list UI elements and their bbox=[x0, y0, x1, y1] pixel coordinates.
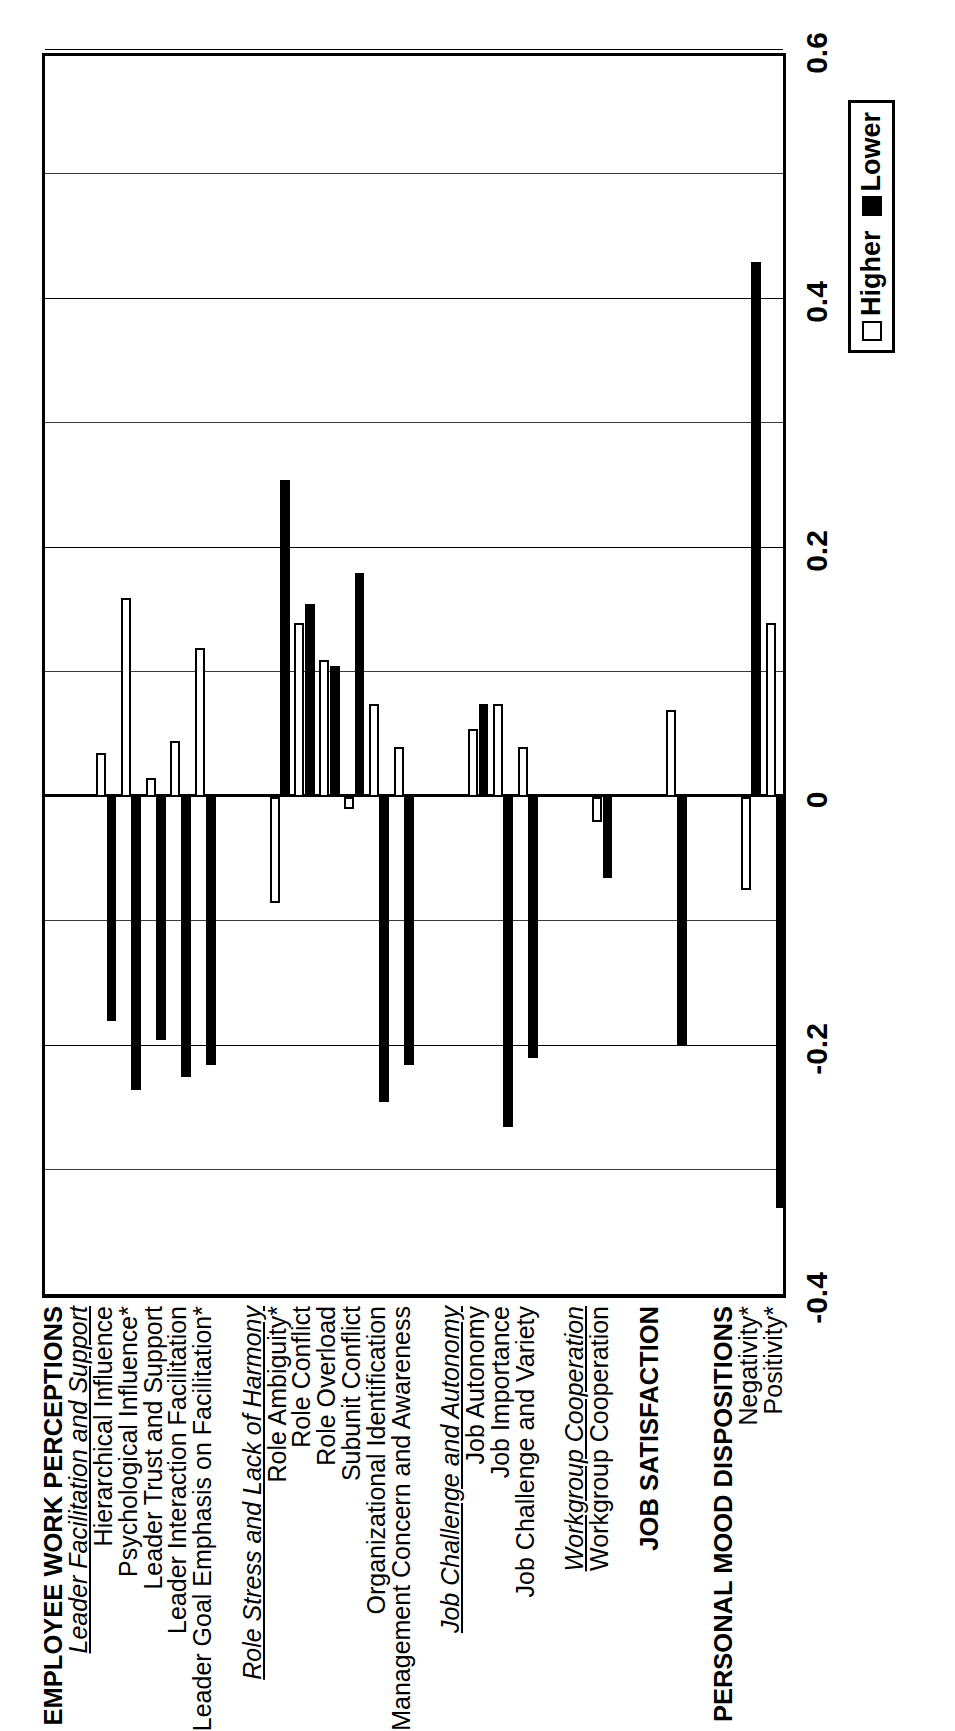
category-group-label: JOB SATISFACTION bbox=[637, 1306, 663, 1551]
bar-lower bbox=[404, 797, 414, 1065]
section-separator bbox=[442, 56, 443, 1295]
bar-higher bbox=[592, 797, 602, 822]
bar-lower bbox=[503, 797, 513, 1127]
category-item-label: Workgroup Cooperation bbox=[587, 1306, 612, 1571]
legend-swatch-lower-icon bbox=[862, 196, 882, 216]
category-item-label: Leader Trust and Support bbox=[141, 1306, 166, 1590]
category-subgroup-label: Leader Facilitation and Support bbox=[66, 1306, 91, 1653]
axis-tick-0p4: 0.4 bbox=[800, 257, 834, 347]
gridline--0p2 bbox=[45, 1045, 783, 1046]
category-item-label: Leader Interaction Facilitation bbox=[165, 1306, 190, 1634]
bar-lower bbox=[528, 797, 538, 1058]
gridline--0p3 bbox=[45, 1170, 783, 1171]
category-subgroup-label: Role Stress and Lack of Harmony bbox=[240, 1306, 265, 1680]
section-separator bbox=[715, 56, 716, 1295]
bar-higher bbox=[319, 660, 329, 797]
bar-lower bbox=[181, 797, 191, 1077]
bar-higher bbox=[666, 710, 676, 797]
category-item-label: Organizational Identification bbox=[364, 1306, 389, 1615]
bar-higher bbox=[270, 797, 280, 903]
bar-higher bbox=[96, 753, 106, 797]
bar-higher bbox=[170, 741, 180, 797]
category-item-label: Role Ambiguity* bbox=[265, 1306, 290, 1482]
category-item-label: Negativity* bbox=[736, 1306, 761, 1426]
category-item-label: Leader Goal Emphasis on Facilitation* bbox=[190, 1306, 215, 1731]
chart-legend: Higher Lower bbox=[848, 100, 895, 353]
bar-lower bbox=[751, 262, 761, 797]
bar-higher bbox=[518, 747, 528, 797]
category-item-label: Subunit Conflict bbox=[339, 1306, 364, 1481]
bar-lower bbox=[379, 797, 389, 1102]
legend-swatch-higher-icon bbox=[862, 321, 882, 341]
category-group-label: EMPLOYEE WORK PERCEPTIONS bbox=[41, 1306, 67, 1725]
gridline-0p3 bbox=[45, 423, 783, 424]
bar-higher bbox=[195, 648, 205, 797]
gridline-0p4 bbox=[45, 298, 783, 299]
category-subgroup-label: Job Challenge and Autonomy bbox=[438, 1306, 463, 1633]
gridline-0p2 bbox=[45, 547, 783, 548]
category-item-label: Job Importance bbox=[488, 1306, 513, 1478]
category-item-label: Psychological Influence* bbox=[116, 1306, 141, 1577]
category-item-label: Hierarchical Influence bbox=[91, 1306, 116, 1546]
gridline-0p5 bbox=[45, 174, 783, 175]
bar-higher bbox=[294, 623, 304, 797]
bar-lower bbox=[107, 797, 117, 1021]
category-axis-labels: EMPLOYEE WORK PERCEPTIONSLeader Facilita… bbox=[42, 1302, 786, 1508]
bar-lower bbox=[131, 797, 141, 1090]
bar-lower bbox=[280, 480, 290, 797]
bar-lower bbox=[677, 797, 687, 1046]
axis-tick-0p2: 0.2 bbox=[800, 506, 834, 596]
section-separator bbox=[243, 56, 244, 1295]
bar-higher bbox=[468, 729, 478, 797]
bar-higher bbox=[741, 797, 751, 890]
bar-higher bbox=[493, 704, 503, 797]
bar-lower bbox=[206, 797, 216, 1065]
bar-higher bbox=[394, 747, 404, 797]
bar-higher bbox=[121, 598, 131, 797]
category-item-label: Role Overload bbox=[314, 1306, 339, 1466]
plot-area bbox=[42, 53, 786, 1298]
bar-lower bbox=[603, 797, 613, 878]
category-item-label: Job Autonomy bbox=[463, 1306, 488, 1464]
section-separator bbox=[45, 56, 46, 1295]
bar-lower bbox=[776, 797, 786, 1208]
bar-lower bbox=[156, 797, 166, 1040]
bar-higher bbox=[369, 704, 379, 797]
axis-tick-neg0p2: -0.2 bbox=[800, 1004, 834, 1094]
category-item-label: Positivity* bbox=[761, 1306, 786, 1414]
category-subgroup-label: Workgroup Cooperation bbox=[562, 1306, 587, 1571]
category-item-label: Management Concern and Awareness bbox=[389, 1306, 414, 1731]
section-separator bbox=[70, 56, 71, 1295]
bar-higher bbox=[344, 797, 354, 809]
bar-lower bbox=[330, 666, 340, 797]
legend-label-higher: Higher bbox=[856, 230, 887, 316]
legend-item-higher: Higher bbox=[856, 230, 887, 341]
section-separator bbox=[566, 56, 567, 1295]
axis-tick-neg0p4: -0.4 bbox=[800, 1253, 834, 1343]
category-group-label: PERSONAL MOOD DISPOSITIONS bbox=[711, 1306, 737, 1722]
legend-item-lower: Lower bbox=[856, 112, 887, 217]
category-item-label: Job Challenge and Variety bbox=[513, 1306, 538, 1597]
bar-higher bbox=[766, 623, 776, 797]
category-item-label: Role Conflict bbox=[289, 1306, 314, 1448]
legend-label-lower: Lower bbox=[856, 112, 887, 192]
section-separator bbox=[640, 56, 641, 1295]
axis-tick-0: 0 bbox=[800, 755, 834, 845]
axis-tick-0p6: 0.6 bbox=[800, 8, 834, 98]
bar-higher bbox=[146, 778, 156, 797]
bar-lower bbox=[355, 573, 365, 797]
gridline--0p4 bbox=[45, 1294, 783, 1295]
bar-lower bbox=[305, 604, 315, 797]
gridline-0p6 bbox=[45, 49, 783, 50]
gridline-0p1 bbox=[45, 672, 783, 673]
bar-lower bbox=[479, 704, 489, 797]
